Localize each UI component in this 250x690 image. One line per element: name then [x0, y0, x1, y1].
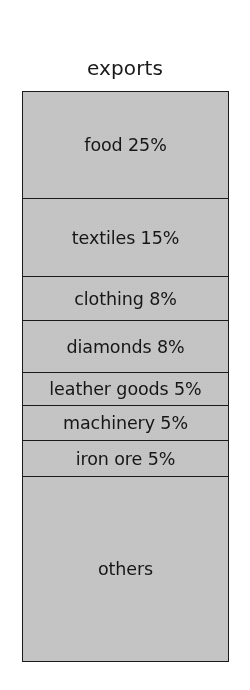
bar-segment-label: clothing 8%: [74, 289, 176, 309]
bar-segment-label: food 25%: [84, 135, 166, 155]
stacked-bar-column: food 25% textiles 15% clothing 8% diamon…: [22, 91, 229, 662]
bar-segment-label: leather goods 5%: [49, 379, 201, 399]
bar-segment-label: diamonds 8%: [67, 337, 185, 357]
bar-segment-others: others: [23, 477, 228, 660]
bar-segment-food: food 25%: [23, 92, 228, 199]
bar-segment-iron-ore: iron ore 5%: [23, 441, 228, 477]
bar-segment-machinery: machinery 5%: [23, 406, 228, 441]
bar-segment-clothing: clothing 8%: [23, 277, 228, 321]
bar-segment-label: iron ore 5%: [76, 449, 176, 469]
bar-segment-diamonds: diamonds 8%: [23, 321, 228, 373]
bar-segment-textiles: textiles 15%: [23, 199, 228, 277]
bar-segment-leather-goods: leather goods 5%: [23, 373, 228, 406]
exports-stacked-bar-figure: exports food 25% textiles 15% clothing 8…: [0, 0, 250, 690]
bar-segment-label: machinery 5%: [63, 413, 188, 433]
bar-segment-label: others: [98, 559, 153, 579]
chart-title: exports: [0, 56, 250, 80]
bar-segment-label: textiles 15%: [72, 228, 179, 248]
